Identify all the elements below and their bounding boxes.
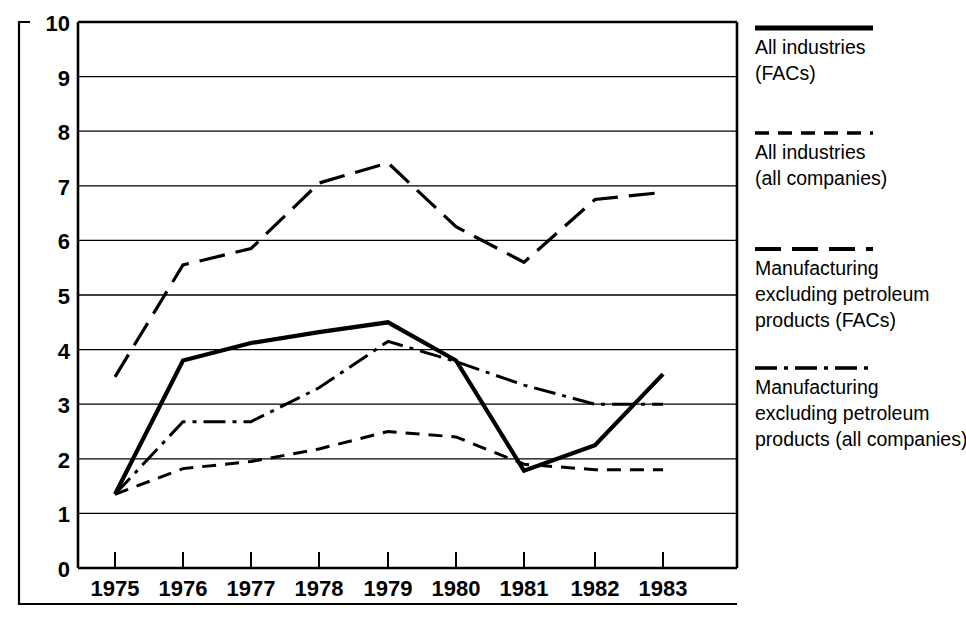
horizontal-gridlines <box>78 77 737 514</box>
x-tick-label: 1977 <box>227 576 276 601</box>
chart-legend: All industries(FACs)All industries(all c… <box>755 28 966 450</box>
legend-label-line: excluding petroleum <box>755 283 930 305</box>
y-tick-label: 1 <box>58 502 70 527</box>
legend-item-1[interactable]: All industries(FACs) <box>755 28 873 84</box>
legend-label-line: Manufacturing <box>755 376 879 398</box>
legend-label-line: All industries <box>755 36 866 58</box>
outer-frame-bracket <box>19 22 737 604</box>
x-tick-label: 1981 <box>500 576 549 601</box>
legend-item-4[interactable]: Manufacturingexcluding petroleumproducts… <box>755 368 966 450</box>
legend-label-line: excluding petroleum <box>755 402 930 424</box>
y-tick-label: 9 <box>58 66 70 91</box>
y-tick-label: 4 <box>58 339 71 364</box>
legend-label-line: (all companies) <box>755 167 887 189</box>
series-line-1 <box>115 322 663 494</box>
y-tick-label: 10 <box>46 11 70 36</box>
x-tick-label: 1982 <box>571 576 620 601</box>
y-tick-label: 7 <box>58 175 70 200</box>
y-tick-label: 8 <box>58 120 70 145</box>
legend-item-3[interactable]: Manufacturingexcluding petroleumproducts… <box>755 249 930 331</box>
x-tick-label: 1978 <box>295 576 344 601</box>
data-series-layer <box>115 163 663 494</box>
legend-label-line: All industries <box>755 141 866 163</box>
chart-canvas: 10 9 8 7 6 5 4 3 2 1 0 1975 1976 <box>0 0 966 628</box>
y-tick-label: 3 <box>58 393 70 418</box>
chart-figure: 10 9 8 7 6 5 4 3 2 1 0 1975 1976 <box>0 0 966 628</box>
legend-item-2[interactable]: All industries(all companies) <box>755 133 887 189</box>
legend-label-line: products (FACs) <box>755 309 896 331</box>
y-tick-label: 6 <box>58 229 70 254</box>
series-line-4 <box>115 341 663 494</box>
y-tick-label: 5 <box>58 284 70 309</box>
x-axis-tick-marks <box>115 552 663 568</box>
x-tick-label: 1979 <box>364 576 413 601</box>
legend-label-line: products (all companies) <box>755 428 966 450</box>
y-tick-label: 0 <box>58 557 70 582</box>
series-line-2 <box>115 432 663 495</box>
legend-label-line: Manufacturing <box>755 257 879 279</box>
x-tick-label: 1976 <box>159 576 208 601</box>
y-tick-label: 2 <box>58 448 70 473</box>
x-tick-label: 1975 <box>91 576 140 601</box>
x-tick-label: 1983 <box>639 576 688 601</box>
x-tick-label: 1980 <box>432 576 481 601</box>
legend-label-line: (FACs) <box>755 62 816 84</box>
y-axis-tick-labels: 10 9 8 7 6 5 4 3 2 1 0 <box>46 11 71 582</box>
x-axis-tick-labels: 1975 1976 1977 1978 1979 1980 1981 1982 … <box>91 576 688 601</box>
series-line-3 <box>115 163 663 377</box>
